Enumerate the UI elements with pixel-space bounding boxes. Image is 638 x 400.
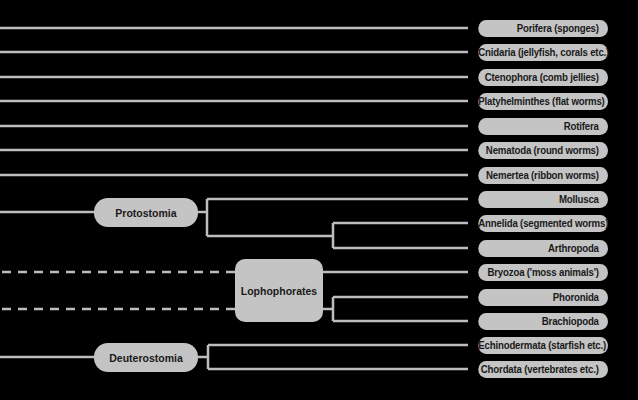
leaf-nemertea: Nemertea (ribbon worms) (478, 167, 608, 184)
leaf-porifera: Porifera (sponges) (478, 20, 608, 37)
leaf-arthropoda: Arthropoda (478, 240, 608, 257)
leaf-platyhelminthes: Platyhelminthes (flat worms) (478, 93, 608, 110)
leaf-annelida: Annelida (segmented worms) (478, 215, 608, 232)
leaf-nematoda: Nematoda (round worms) (478, 142, 608, 159)
clade-deuterostomia: Deuterostomia (94, 343, 198, 372)
leaf-ctenophora: Ctenophora (comb jellies) (478, 69, 608, 86)
clade-lophophorates: Lophophorates (235, 259, 323, 322)
leaf-mollusca: Mollusca (478, 191, 608, 208)
leaf-bryozoa: Bryozoa ('moss animals') (478, 264, 608, 281)
leaf-echinodermata: Echinodermata (starfish etc.) (478, 337, 608, 354)
phylogeny-diagram: Porifera (sponges) Cnidaria (jellyfish, … (0, 0, 638, 400)
leaf-phoronida: Phoronida (478, 289, 608, 306)
clade-protostomia: Protostomia (94, 198, 198, 227)
leaf-brachiopoda: Brachiopoda (478, 313, 608, 330)
leaf-rotifera: Rotifera (478, 118, 608, 135)
leaf-cnidaria: Cnidaria (jellyfish, corals etc.) (478, 44, 608, 61)
leaf-chordata: Chordata (vertebrates etc.) (478, 361, 608, 378)
